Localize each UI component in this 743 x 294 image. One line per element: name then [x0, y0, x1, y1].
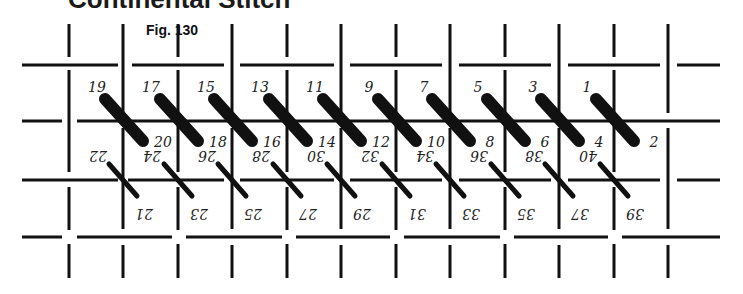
- stitch-number-bottom: 35: [517, 206, 535, 222]
- stitch-number-bottom: 37: [571, 206, 589, 222]
- stitch-number-top: 5: [474, 79, 483, 95]
- stitch-number-bottom: 25: [244, 206, 263, 222]
- stitch-number-bottom: 39: [626, 206, 644, 222]
- stitch-number-third: 30: [307, 148, 325, 164]
- stitch-number-bottom: 27: [299, 206, 318, 222]
- stitch-number-bottom: 33: [462, 206, 480, 222]
- stitch-number-third: 38: [525, 148, 543, 164]
- stitch-number-second: 12: [372, 134, 390, 150]
- stitch-number-second: 20: [153, 134, 172, 150]
- stitch-number-bottom: 31: [408, 206, 426, 222]
- stitch-number-third: 36: [470, 148, 488, 164]
- stitch-number-second: 14: [318, 134, 336, 150]
- stitch-number-third: 40: [579, 148, 598, 164]
- stitch-number-top: 13: [251, 79, 269, 95]
- stitch-number-second: 18: [209, 134, 227, 150]
- stitch-number-top: 11: [306, 79, 324, 95]
- stitch-number-third: 24: [143, 148, 162, 164]
- stitch-number-third: 34: [416, 148, 434, 164]
- stitch-number-bottom: 29: [353, 206, 372, 222]
- stitch-number-top: 17: [142, 79, 160, 95]
- stitch-number-top: 9: [365, 79, 374, 95]
- stitch-number-top: 1: [583, 79, 592, 95]
- stitch-number-third: 28: [252, 148, 271, 164]
- stitch-diagram: 1917151311975312018161412108642222426283…: [0, 0, 743, 294]
- stitch-number-second: 8: [486, 134, 495, 150]
- stitch-number-top: 3: [529, 79, 538, 95]
- stitch-number-top: 15: [197, 79, 215, 95]
- stitch-number-third: 32: [361, 148, 379, 164]
- stitch-number-third: 22: [89, 148, 108, 164]
- stitch-number-bottom: 23: [190, 206, 209, 222]
- stitch-number-bottom: 21: [135, 206, 154, 222]
- stitch-number-second: 10: [427, 134, 445, 150]
- stitch-number-second: 2: [649, 134, 659, 150]
- stitch-number-second: 4: [594, 134, 604, 150]
- stitch-number-second: 16: [263, 134, 281, 150]
- stitch-number-top: 19: [88, 79, 106, 95]
- stitch-number-third: 26: [198, 148, 217, 164]
- stitch-number-top: 7: [420, 79, 429, 95]
- stitch-number-second: 6: [541, 134, 550, 150]
